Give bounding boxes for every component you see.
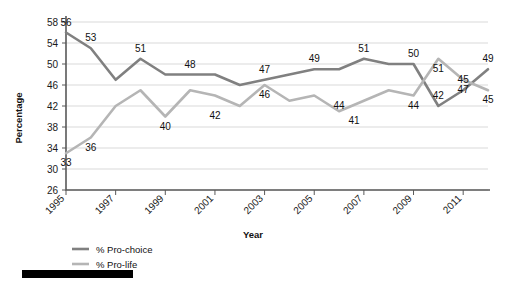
axis-lines bbox=[66, 16, 490, 190]
data-label: 42 bbox=[433, 90, 445, 101]
data-label: 33 bbox=[60, 157, 72, 168]
x-axis-title: Year bbox=[243, 229, 263, 240]
data-label: 46 bbox=[259, 89, 271, 100]
data-label: 45 bbox=[482, 94, 494, 105]
data-label: 49 bbox=[482, 53, 494, 64]
chart-canvas: 263034384246505458 199519971999200120032… bbox=[0, 0, 507, 287]
data-label: 51 bbox=[433, 63, 445, 74]
data-label: 42 bbox=[209, 110, 221, 121]
x-tick-label: 1997 bbox=[93, 192, 117, 216]
x-tick-label: 2009 bbox=[390, 192, 414, 216]
x-tick-label: 2003 bbox=[241, 192, 265, 216]
legend-label-pro-choice: % Pro-choice bbox=[96, 244, 153, 255]
chart-legend: % Pro-choice% Pro-life bbox=[72, 244, 153, 270]
data-label: 36 bbox=[85, 142, 97, 153]
y-tick-label: 42 bbox=[47, 101, 59, 112]
data-label: 51 bbox=[135, 43, 147, 54]
y-axis-title: Percentage bbox=[13, 92, 24, 143]
data-label: 44 bbox=[408, 100, 420, 111]
black-bar-decoration bbox=[22, 270, 133, 278]
data-label: 40 bbox=[160, 121, 172, 132]
gridlines bbox=[66, 22, 488, 190]
data-label: 44 bbox=[333, 100, 345, 111]
series-line-pro-choice bbox=[66, 33, 488, 107]
y-tick-label: 38 bbox=[47, 122, 59, 133]
series-lines bbox=[66, 33, 488, 154]
x-tick-label: 2011 bbox=[441, 192, 464, 215]
data-label: 49 bbox=[309, 53, 321, 64]
data-label: 51 bbox=[358, 43, 370, 54]
y-tick-label: 46 bbox=[47, 80, 59, 91]
data-label: 48 bbox=[185, 59, 197, 70]
x-tick-label: 2007 bbox=[341, 192, 365, 216]
x-axis-ticks: 199519971999200120032005200720092011 bbox=[43, 190, 464, 216]
data-label: 47 bbox=[458, 84, 470, 95]
data-label: 41 bbox=[348, 115, 360, 126]
data-label: 47 bbox=[259, 64, 271, 75]
x-tick-label: 2005 bbox=[291, 192, 315, 216]
data-label: 50 bbox=[408, 48, 420, 59]
axes bbox=[66, 16, 490, 190]
line-chart: 263034384246505458 199519971999200120032… bbox=[0, 0, 507, 287]
y-tick-label: 50 bbox=[47, 59, 59, 70]
x-tick-label: 1995 bbox=[43, 192, 67, 216]
legend-label-pro-life: % Pro-life bbox=[96, 259, 137, 270]
data-label: 56 bbox=[60, 17, 72, 28]
y-tick-label: 34 bbox=[47, 143, 59, 154]
y-tick-label: 58 bbox=[47, 17, 59, 28]
data-label: 53 bbox=[85, 32, 97, 43]
x-tick-label: 2001 bbox=[192, 192, 216, 216]
y-tick-label: 54 bbox=[47, 38, 59, 49]
y-axis-ticks: 263034384246505458 bbox=[47, 17, 66, 196]
x-tick-label: 1999 bbox=[142, 192, 166, 216]
y-tick-label: 30 bbox=[47, 164, 59, 175]
